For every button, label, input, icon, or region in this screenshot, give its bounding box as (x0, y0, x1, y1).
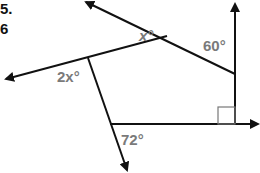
angle-label-72: 72° (121, 131, 144, 148)
problem-number-partial: 6 (0, 20, 8, 37)
ray-bottom (88, 58, 127, 170)
right-angle-marker (218, 107, 235, 124)
problem-number: 5. (0, 0, 13, 17)
geometry-diagram: 5. 6 x° 60° 2x° 72° (0, 0, 260, 173)
angle-label-60: 60° (203, 37, 226, 54)
angle-label-2x: 2x° (57, 68, 80, 85)
angle-label-x: x° (138, 27, 154, 44)
